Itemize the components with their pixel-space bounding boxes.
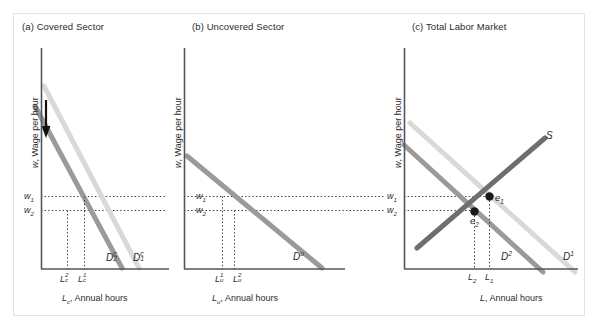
wage-tick-w2-c: w2 bbox=[387, 205, 397, 215]
panel-title-covered-sector: (a) Covered Sector bbox=[22, 21, 104, 32]
labor-tick-lc2: L2c bbox=[60, 272, 68, 284]
panel-covered-sector bbox=[35, 48, 169, 269]
x-axis-label-c: L, Annual hours bbox=[480, 293, 543, 303]
curve-label-d2c: Dc2 bbox=[106, 251, 117, 263]
labor-tick-lu1: L1u bbox=[215, 272, 223, 284]
curve-s-total bbox=[417, 138, 545, 248]
x-axis-label-a: Lc, Annual hours bbox=[62, 293, 128, 303]
x-axis-label-b: Lu, Annual hours bbox=[212, 293, 278, 303]
curve-label-du: Du bbox=[293, 251, 304, 262]
panel-total-labor-market bbox=[404, 48, 578, 272]
wage-tick-w2-b: w2 bbox=[196, 205, 206, 215]
curve-label-d1c: Dc1 bbox=[133, 251, 144, 263]
labor-tick-l2: L2 bbox=[468, 272, 476, 282]
labor-tick-lu2: L2u bbox=[233, 272, 241, 284]
panel-title-total-labor-market: (c) Total Labor Market bbox=[412, 21, 506, 32]
y-axis-label-a: w, Wage per hour bbox=[30, 97, 40, 168]
curve-label-d2-total: D2 bbox=[501, 251, 512, 262]
curve-label-d1-total: D1 bbox=[563, 251, 574, 262]
curve-d1c bbox=[44, 86, 139, 268]
wage-tick-w1-a: w1 bbox=[24, 191, 34, 201]
labor-tick-l1: L1 bbox=[485, 272, 493, 282]
figure-root: (a) Covered Sector w, Wage per hour w1 w… bbox=[0, 0, 598, 333]
y-axis-label-c: w, Wage per hour bbox=[393, 97, 403, 168]
figure-canvas bbox=[0, 0, 598, 333]
curve-label-s: S bbox=[546, 130, 553, 141]
y-axis-label-b: w, Wage per hour bbox=[173, 97, 183, 168]
point-e1 bbox=[485, 192, 493, 200]
labor-tick-lc1: L1c bbox=[78, 272, 86, 284]
panel-uncovered-sector bbox=[184, 48, 345, 269]
equilibrium-label-e2: e2 bbox=[470, 215, 479, 226]
wage-tick-w2-a: w2 bbox=[24, 205, 34, 215]
panel-title-uncovered-sector: (b) Uncovered Sector bbox=[192, 21, 284, 32]
equilibrium-label-e1: e1 bbox=[495, 192, 504, 203]
wage-tick-w1-b: w1 bbox=[196, 191, 206, 201]
wage-tick-w1-c: w1 bbox=[387, 191, 397, 201]
